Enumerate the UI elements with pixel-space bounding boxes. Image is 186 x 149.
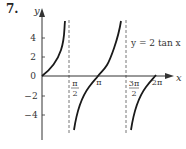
x-axis-arrow-icon (165, 73, 174, 79)
y-tick-label-neg2: −2 (24, 91, 37, 101)
x-axis-label: x (176, 72, 182, 83)
y-tick-label-0: 0 (30, 71, 36, 81)
tangent-graph: 4 2 0 −2 −4 y x π 2 π 3π 2 2π y = 2 tan … (0, 0, 186, 149)
x-tick-label-pi: π (96, 78, 101, 87)
equation-label: y = 2 tan x (130, 38, 181, 48)
y-axis-label: y (33, 5, 40, 16)
y-tick-label-2: 2 (30, 52, 36, 62)
y-tick-label-neg4: −4 (24, 110, 38, 120)
x-tick-label-pi-half-den: 2 (72, 89, 77, 98)
x-tick-label-three-pi-half-num: 3π (129, 79, 139, 88)
y-axis-arrow-icon (39, 8, 45, 17)
x-tick-label-pi-half-num: π (72, 79, 77, 88)
curve-branch-1 (42, 21, 65, 76)
y-tick-label-4: 4 (30, 33, 36, 43)
x-tick-label-three-pi-half-den: 2 (131, 89, 136, 98)
